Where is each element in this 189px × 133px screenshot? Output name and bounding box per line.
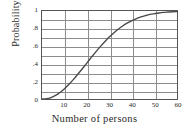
data-curve	[42, 11, 177, 99]
x-tick-label: 40	[129, 101, 136, 109]
x-tick-label: 20	[83, 101, 90, 109]
y-axis-tick-labels: 0.2.4.6.81	[24, 10, 38, 100]
x-tick-label: 60	[175, 101, 182, 109]
y-tick-label: 0	[35, 97, 39, 104]
y-tick-label: 1	[35, 7, 39, 14]
x-tick-label: 30	[106, 101, 113, 109]
y-tick-label: .6	[33, 43, 38, 50]
y-tick-label: .4	[33, 61, 38, 68]
curve-path	[42, 12, 177, 99]
x-axis-title: Number of persons	[0, 113, 189, 124]
plot-area	[41, 10, 178, 100]
x-tick-label: 50	[152, 101, 159, 109]
y-tick-label: .8	[33, 25, 38, 32]
chart-figure: Probability 0.2.4.6.81 102030405060 Numb…	[0, 0, 189, 133]
y-axis-title: Probability	[10, 0, 21, 63]
y-tick-label: .2	[33, 79, 38, 86]
x-tick-label: 10	[60, 101, 67, 109]
x-axis-tick-labels: 102030405060	[41, 101, 178, 111]
